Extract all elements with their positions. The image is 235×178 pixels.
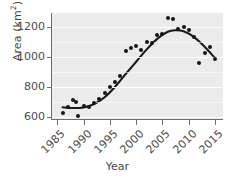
data-point: [208, 45, 212, 49]
x-tick-label: 2010: [168, 128, 198, 158]
data-point: [103, 91, 107, 95]
data-point: [108, 85, 112, 89]
gridline-major: [52, 87, 223, 88]
x-tick-mark: [84, 120, 85, 125]
data-point: [134, 44, 138, 48]
data-point: [182, 25, 186, 29]
chart-figure: Area (km2) 60080010001200 19851990199520…: [0, 0, 235, 178]
x-tick-label: 2015: [194, 128, 224, 158]
x-tick-label: 1990: [63, 128, 93, 158]
data-point: [76, 114, 80, 118]
x-tick-mark: [162, 120, 163, 125]
y-tick-mark: [47, 27, 52, 28]
data-point: [192, 35, 196, 39]
data-point: [97, 97, 101, 101]
data-point: [66, 105, 70, 109]
data-point: [87, 105, 91, 109]
data-point: [139, 48, 143, 52]
x-tick-mark: [215, 120, 216, 125]
data-point: [203, 51, 207, 55]
plot-panel: [52, 13, 223, 119]
data-point: [124, 49, 128, 53]
y-tick-label: 1200: [12, 21, 45, 32]
y-tick-label: 1000: [12, 51, 45, 62]
y-tick-mark: [47, 87, 52, 88]
data-point: [113, 80, 117, 84]
data-point: [155, 33, 159, 37]
data-point: [150, 41, 154, 45]
gridline-major: [52, 57, 223, 58]
gridline-major: [52, 27, 223, 28]
x-tick-mark: [189, 120, 190, 125]
data-point: [92, 101, 96, 105]
x-axis-title: Year: [0, 160, 235, 173]
gridline-minor: [52, 72, 223, 73]
x-tick-mark: [110, 120, 111, 125]
y-tick-label: 800: [12, 81, 45, 92]
data-point: [129, 46, 133, 50]
data-point: [166, 16, 170, 20]
x-tick-label: 2005: [142, 128, 172, 158]
x-tick-label: 2000: [116, 128, 146, 158]
y-tick-mark: [47, 117, 52, 118]
y-tick-mark: [47, 57, 52, 58]
x-tick-label: 1995: [89, 128, 119, 158]
data-point: [160, 32, 164, 36]
data-point: [176, 27, 180, 31]
data-point: [61, 111, 65, 115]
data-point: [145, 40, 149, 44]
data-point: [187, 28, 191, 32]
x-tick-mark: [57, 120, 58, 125]
gridline-minor: [52, 42, 223, 43]
y-tick-label: 600: [12, 111, 45, 122]
smoothed-trend-line: [52, 13, 223, 119]
data-point: [197, 61, 201, 65]
data-point: [118, 74, 122, 78]
data-point: [171, 17, 175, 21]
data-point: [82, 104, 86, 108]
x-tick-mark: [136, 120, 137, 125]
data-point: [74, 100, 78, 104]
data-point: [213, 57, 217, 61]
